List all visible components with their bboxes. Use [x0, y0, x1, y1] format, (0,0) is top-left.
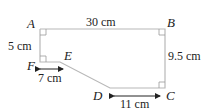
measurement-fe: 7 cm	[38, 71, 62, 85]
right-angle-marker-f	[40, 56, 46, 62]
point-label-b: B	[167, 15, 175, 30]
right-angle-marker-c	[159, 82, 165, 88]
right-angle-marker-b	[159, 29, 165, 35]
right-angle-marker-a	[40, 29, 46, 35]
hexagon-diagram: A B C D E F 30 cm 5 cm 9.5 cm 7 cm 11 cm	[0, 0, 209, 112]
point-label-d: D	[92, 88, 103, 103]
point-label-e: E	[63, 48, 72, 63]
point-label-c: C	[166, 88, 175, 103]
measurement-dc: 11 cm	[120, 97, 150, 111]
measurement-ab: 30 cm	[86, 15, 116, 29]
point-label-f: F	[26, 58, 36, 73]
measurement-bc: 9.5 cm	[168, 49, 201, 63]
measurement-af: 5 cm	[8, 39, 32, 53]
point-label-a: A	[26, 16, 35, 31]
